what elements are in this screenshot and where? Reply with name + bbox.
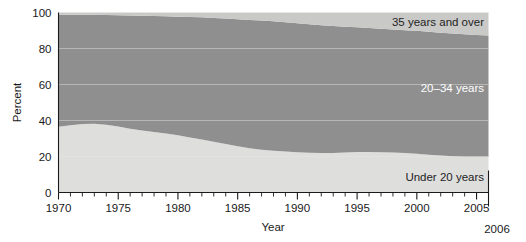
chart-figure: 19701975198019851990199520002005 0204060… (0, 0, 526, 242)
y-tick-label-40: 40 (39, 115, 52, 127)
x-tick-label-1975: 1975 (105, 202, 131, 214)
area-bands (59, 13, 489, 193)
y-tick-label-0: 0 (45, 187, 51, 199)
y-tick-label-20: 20 (39, 151, 52, 163)
x-tick-label-2005: 2005 (464, 202, 490, 214)
x-tick-label-1995: 1995 (344, 202, 370, 214)
y-tick-label-60: 60 (39, 79, 52, 91)
x-tick-label-2000: 2000 (404, 202, 430, 214)
series-label-under-20-years: Under 20 years (405, 171, 484, 183)
y-tick-label-100: 100 (32, 7, 51, 19)
series-label-20-34-years: 20–34 years (421, 82, 485, 94)
end-year-label: 2006 (484, 223, 510, 235)
series-label-35-and-over: 35 years and over (392, 16, 484, 28)
y-tick-label-80: 80 (39, 43, 52, 55)
x-tick-label-1980: 1980 (165, 202, 191, 214)
x-tick-label-1990: 1990 (285, 202, 311, 214)
stacked-area-chart: 19701975198019851990199520002005 0204060… (0, 0, 526, 242)
y-axis-title: Percent (11, 82, 23, 122)
x-tick-label-1970: 1970 (46, 202, 72, 214)
x-axis-title: Year (261, 221, 284, 233)
x-tick-label-1985: 1985 (225, 202, 251, 214)
